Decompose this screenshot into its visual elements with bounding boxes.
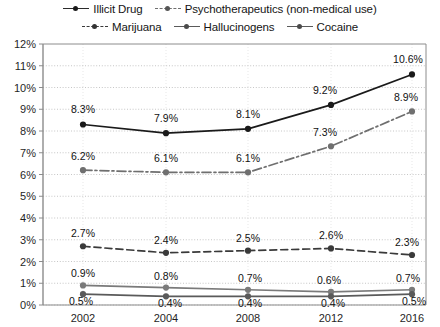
plot-area: 0%1%2%3%4%5%6%7%8%9%10%11%12% 2002200420… — [0, 0, 440, 327]
data-label: 0.9% — [71, 267, 95, 279]
series-line — [83, 74, 412, 133]
data-label: 0.5% — [69, 295, 93, 307]
x-axis-tick-label: 2008 — [236, 312, 260, 324]
y-axis-tick-label: 9% — [20, 103, 36, 115]
data-point-marker — [80, 243, 86, 249]
y-axis-tick-label: 8% — [20, 125, 36, 137]
data-label: 2.7% — [71, 227, 95, 239]
data-point-marker — [328, 245, 334, 251]
data-point-marker — [409, 252, 415, 258]
y-axis-tick-label: 3% — [20, 234, 36, 246]
data-label: 8.9% — [394, 91, 418, 103]
y-axis-tick-label: 10% — [14, 82, 36, 94]
data-label: 0.7% — [396, 272, 420, 284]
data-label: 2.6% — [319, 229, 343, 241]
series-layer — [80, 71, 415, 299]
data-label: 0.8% — [154, 270, 178, 282]
data-point-marker — [80, 121, 86, 127]
data-point-marker — [163, 285, 169, 291]
y-axis-tick-label: 4% — [20, 212, 36, 224]
data-point-marker — [409, 108, 415, 114]
data-point-marker — [409, 71, 415, 77]
data-labels-layer: 8.3%7.9%8.1%9.2%10.6%6.2%6.1%6.1%7.3%8.9… — [69, 53, 426, 309]
x-axis: 20022004200820122016 — [43, 44, 426, 324]
data-point-marker — [245, 287, 251, 293]
data-label: 6.2% — [71, 150, 95, 162]
y-axis-tick-label: 7% — [20, 147, 36, 159]
y-axis-tick-label: 12% — [14, 38, 36, 50]
x-axis-tick-label: 2016 — [400, 312, 424, 324]
data-point-marker — [245, 248, 251, 254]
data-point-marker — [163, 130, 169, 136]
data-label: 7.9% — [154, 112, 178, 124]
y-axis: 0%1%2%3%4%5%6%7%8%9%10%11%12% — [14, 38, 43, 311]
data-label: 6.1% — [154, 152, 178, 164]
data-label: 9.2% — [313, 84, 337, 96]
y-axis-tick-label: 6% — [20, 169, 36, 181]
data-point-marker — [328, 143, 334, 149]
data-label: 0.4% — [238, 297, 262, 309]
data-point-marker — [328, 102, 334, 108]
data-label: 2.4% — [154, 234, 178, 246]
y-axis-tick-label: 2% — [20, 256, 36, 268]
data-label: 0.4% — [321, 297, 345, 309]
x-axis-tick-label: 2012 — [319, 312, 343, 324]
y-axis-tick-label: 0% — [20, 299, 36, 311]
drug-use-trend-chart: Illicit Drug Psychotherapeutics (non-med… — [0, 0, 440, 327]
data-label: 0.4% — [158, 297, 182, 309]
y-axis-tick-label: 5% — [20, 190, 36, 202]
x-axis-tick-label: 2004 — [154, 312, 178, 324]
data-label: 0.7% — [238, 272, 262, 284]
data-label: 10.6% — [393, 53, 423, 65]
data-point-marker — [163, 250, 169, 256]
data-label: 0.5% — [402, 295, 426, 307]
data-label: 2.3% — [395, 236, 419, 248]
x-axis-tick-label: 2002 — [71, 312, 95, 324]
data-point-marker — [163, 169, 169, 175]
y-axis-tick-label: 1% — [20, 277, 36, 289]
data-label: 2.5% — [236, 232, 260, 244]
data-label: 8.3% — [71, 103, 95, 115]
data-label: 0.6% — [317, 274, 341, 286]
data-point-marker — [245, 126, 251, 132]
data-label: 8.1% — [236, 108, 260, 120]
data-point-marker — [80, 282, 86, 288]
data-label: 7.3% — [313, 126, 337, 138]
data-point-marker — [245, 169, 251, 175]
data-point-marker — [80, 167, 86, 173]
gridlines — [43, 44, 426, 305]
y-axis-tick-label: 11% — [15, 60, 36, 72]
data-label: 6.1% — [236, 152, 260, 164]
